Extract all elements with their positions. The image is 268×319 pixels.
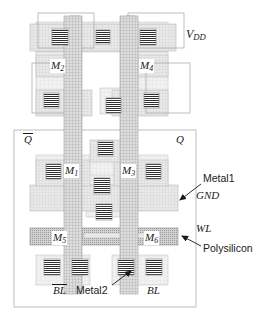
signal-label-q-bar: Q	[23, 133, 33, 145]
signal-label-wl: WL	[196, 222, 211, 234]
callout-label-polysilicon: Polysilicon	[203, 242, 253, 254]
signal-label-gnd: GND	[196, 189, 219, 201]
layout-canvas	[0, 0, 268, 319]
metal2-bl	[120, 16, 138, 294]
sram-layout-figure: VDD GND WL Q Q BL BL M2 M4 M1 M3 M5 M6 M…	[0, 0, 268, 319]
signal-label-vdd: VDD	[186, 27, 206, 42]
signal-label-bl: BL	[147, 284, 160, 296]
transistor-label-m3: M3	[121, 164, 136, 178]
transistor-label-m1: M1	[64, 164, 79, 178]
transistor-label-m5: M5	[52, 231, 67, 245]
transistor-label-m2: M2	[50, 59, 65, 73]
signal-label-q: Q	[176, 133, 184, 145]
signal-label-bl-bar: BL	[52, 284, 67, 296]
callout-label-metal1: Metal1	[203, 172, 235, 184]
transistor-label-m6: M6	[144, 231, 159, 245]
transistor-label-m4: M4	[139, 59, 154, 73]
leader-polysilicon	[182, 236, 201, 246]
metal2-bl-bar	[64, 16, 82, 294]
callout-label-metal2: Metal2	[76, 284, 108, 296]
